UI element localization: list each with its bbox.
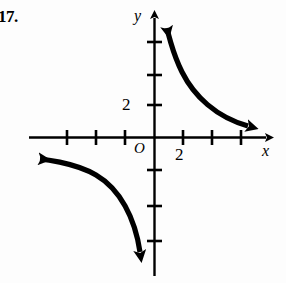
y-axis bbox=[147, 18, 162, 276]
x-tick-label-2: 2 bbox=[175, 146, 184, 163]
x-axis bbox=[29, 130, 266, 145]
x-axis-label: x bbox=[262, 143, 269, 159]
figure-page: 17. bbox=[0, 0, 286, 283]
y-tick-label-2: 2 bbox=[122, 96, 131, 113]
curve-path-lower-left bbox=[40, 159, 140, 252]
origin-label: O bbox=[134, 141, 145, 156]
y-axis-label: y bbox=[134, 8, 141, 24]
curve-path-upper-right bbox=[167, 28, 248, 126]
hyperbola-branch-upper-right bbox=[167, 28, 248, 126]
hyperbola-branch-lower-left bbox=[40, 159, 140, 252]
